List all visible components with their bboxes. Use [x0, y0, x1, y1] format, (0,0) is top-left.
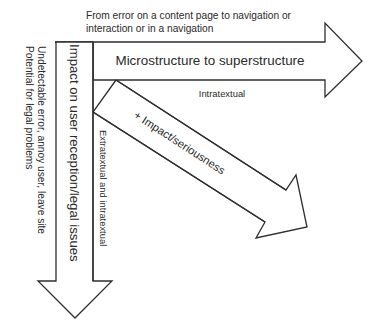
side-note-line1: Undetectable error, annoy user, leave si…	[36, 46, 47, 234]
top-note-line2: interaction or in a navigation	[86, 23, 213, 34]
vertical-arrow-label: Impact on user reception/legal issues	[67, 44, 82, 262]
vertical-arrow-sublabel: Extratextual and intratextual	[98, 130, 109, 246]
diagram-canvas: From error on a content page to navigati…	[0, 0, 383, 335]
horizontal-arrow-label: Microstructure to superstructure	[115, 53, 304, 68]
top-note-line1: From error on a content page to navigati…	[86, 10, 292, 21]
horizontal-arrow-sublabel: Intratextual	[199, 88, 245, 99]
side-note-line2: Potential for legal problems	[24, 46, 35, 169]
